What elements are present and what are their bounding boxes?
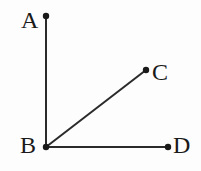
point-A-dot — [43, 13, 49, 19]
point-label-d: D — [173, 133, 190, 157]
point-label-b: B — [20, 133, 36, 157]
point-D-dot — [165, 144, 171, 150]
point-C-dot — [143, 67, 149, 73]
point-label-a: A — [21, 8, 38, 32]
geometry-figure: A B C D — [0, 0, 201, 171]
point-label-c: C — [152, 60, 168, 84]
segment-BC — [46, 70, 146, 147]
point-B-dot — [43, 144, 49, 150]
